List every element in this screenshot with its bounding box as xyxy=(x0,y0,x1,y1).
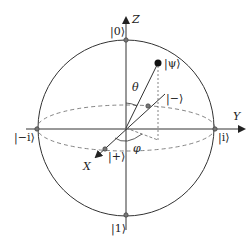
state-one-label: |1⟩ xyxy=(111,222,126,236)
state-zero-label: |0⟩ xyxy=(110,25,125,39)
theta-label: θ xyxy=(132,81,139,94)
state-plus-point xyxy=(103,147,107,151)
z-axis-label: Z xyxy=(131,13,140,26)
state-psi-point xyxy=(155,60,162,67)
state-minus-i-point xyxy=(35,127,39,131)
psi-vector xyxy=(126,63,158,128)
bloch-sphere-diagram: Z Y X |0⟩ |1⟩ |−i⟩ |i⟩ |+⟩ |−⟩ |ψ⟩ θ φ xyxy=(0,0,252,239)
x-axis-label: X xyxy=(82,160,92,173)
state-minus-label: |−⟩ xyxy=(166,92,183,106)
phi-arc xyxy=(115,134,142,141)
y-axis-label: Y xyxy=(233,110,242,123)
phi-label: φ xyxy=(133,142,141,155)
state-plus-label: |+⟩ xyxy=(108,150,125,164)
state-i-point xyxy=(213,127,217,131)
state-minus-i-label: |−i⟩ xyxy=(14,131,35,145)
state-minus-point xyxy=(146,104,150,108)
state-zero-point xyxy=(124,38,128,42)
theta-arc xyxy=(126,103,137,106)
state-psi-label: |ψ⟩ xyxy=(164,57,181,71)
state-i-label: |i⟩ xyxy=(218,131,230,145)
state-one-point xyxy=(124,213,128,217)
